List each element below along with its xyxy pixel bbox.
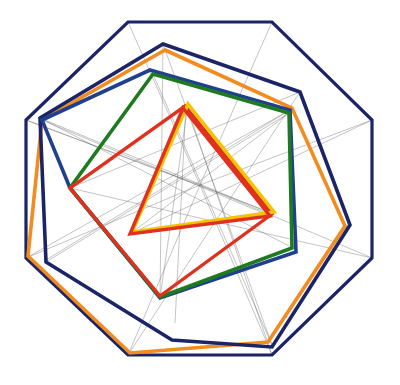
polygon-layers [26,22,372,355]
nested-polygons-figure [0,0,400,385]
construction-line [152,72,272,345]
construction-line [186,104,272,355]
heptagon-navy [40,44,350,347]
diagram-canvas [0,0,400,385]
